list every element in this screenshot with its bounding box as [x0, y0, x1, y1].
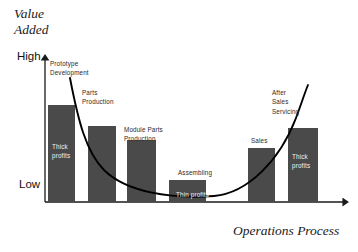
profit-tag-prototype-development: Thick profits	[52, 142, 70, 161]
bar-sales	[248, 148, 275, 202]
profit-tag-after-sales-servicing: Thick profits	[292, 152, 310, 171]
bar-caption-prototype-development: Prototype Development	[50, 59, 89, 78]
bar-caption-sales: Sales	[251, 136, 268, 145]
operations-process-axis-title: Operations Process	[233, 223, 339, 239]
scale-label-low: Low	[19, 178, 40, 190]
profit-tag-assembling: Thin profits	[176, 190, 209, 199]
smile-curve-diagram: Value Added Operations Process High Low …	[0, 0, 358, 252]
value-added-axis-title: Value Added	[14, 6, 49, 38]
bar-caption-after-sales-servicing: After Sales Servicing	[272, 88, 299, 116]
bar-caption-parts-production: Parts Production	[82, 88, 114, 107]
diagram-canvas	[0, 0, 358, 252]
bar-caption-module-parts-production: Module Parts Production	[124, 125, 163, 144]
bar-caption-assembling: Assembling	[178, 168, 212, 177]
scale-label-high: High	[17, 50, 41, 62]
bar-parts-production	[88, 126, 116, 202]
